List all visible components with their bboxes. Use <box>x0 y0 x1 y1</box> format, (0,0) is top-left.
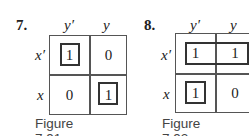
column-label-y-prime: y′ <box>190 17 200 34</box>
row-label-x: x <box>163 86 170 103</box>
karnaugh-map: 1 0 0 1 <box>49 35 127 115</box>
column-label-y-prime: y′ <box>64 17 74 34</box>
figure-caption: Figure 7.91 <box>35 116 73 136</box>
grouping-loop <box>185 81 206 104</box>
karnaugh-map: 1 1 1 0 <box>175 33 249 113</box>
problem-number: 8. <box>144 17 155 34</box>
column-label-y: y <box>230 17 237 34</box>
problem-number: 7. <box>16 17 27 34</box>
grouping-loop <box>98 82 118 105</box>
grouping-loop <box>60 43 80 66</box>
row-label-x: x <box>37 87 44 104</box>
row-label-x-prime: x′ <box>161 47 171 64</box>
grouping-loop <box>185 42 249 65</box>
column-label-y: y <box>103 17 110 34</box>
cell-x-prime-y: 0 <box>90 36 127 74</box>
cell-x-y: 0 <box>216 74 249 112</box>
cell-x-y-prime: 0 <box>50 76 89 114</box>
row-label-x-prime: x′ <box>35 47 45 64</box>
figure-caption: Figure 7.92 <box>162 116 200 136</box>
